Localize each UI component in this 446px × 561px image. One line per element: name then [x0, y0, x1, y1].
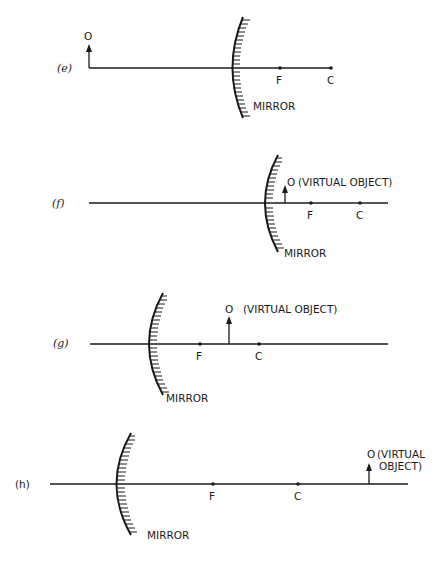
object-label: O [225, 303, 233, 315]
focus-label: F [209, 490, 215, 502]
panel-e: (e) O MIRROR F C [57, 17, 334, 118]
object-note-line1: (VIRTUAL [377, 448, 425, 460]
object-note: (VIRTUAL OBJECT) [298, 176, 392, 188]
mirror-label: MIRROR [253, 100, 295, 112]
panel-label-h: (h) [15, 478, 30, 490]
mirror-label: MIRROR [284, 247, 326, 259]
object-label: O [367, 448, 375, 460]
center-label: C [294, 490, 301, 502]
panel-g: (g) MIRROR F O (VIRTUAL OBJECT) C [53, 293, 388, 404]
center-point [358, 201, 362, 205]
focus-point [198, 342, 202, 346]
panel-h: (h) MIRROR F C O (VIRTUAL OBJECT) [15, 433, 425, 541]
focus-point [309, 201, 313, 205]
focus-label: F [196, 350, 202, 362]
focus-label: F [276, 74, 282, 86]
center-point [296, 482, 300, 486]
panel-label-g: (g) [53, 337, 69, 350]
mirror-label: MIRROR [147, 529, 189, 541]
center-point [329, 66, 333, 70]
object-note: (VIRTUAL OBJECT) [243, 303, 337, 315]
mirror-diagrams: (e) O MIRROR F C (f) [0, 0, 446, 561]
panel-f: (f) MIRROR O (VIRTUAL OBJECT) F C [52, 155, 392, 259]
arrow-head-icon [86, 44, 92, 52]
object-note-line2: OBJECT) [379, 460, 422, 472]
center-label: C [255, 350, 262, 362]
panel-label-f: (f) [52, 197, 65, 210]
center-point [257, 342, 261, 346]
panel-label-e: (e) [57, 62, 72, 75]
center-label: C [356, 209, 363, 221]
mirror-label: MIRROR [166, 392, 208, 404]
arrow-head-icon [366, 463, 372, 471]
center-label: C [327, 74, 334, 86]
focus-label: F [307, 209, 313, 221]
focus-point [278, 66, 282, 70]
arrow-head-icon [226, 316, 232, 324]
object-label: O [287, 176, 295, 188]
object-label: O [84, 30, 92, 42]
focus-point [211, 482, 215, 486]
